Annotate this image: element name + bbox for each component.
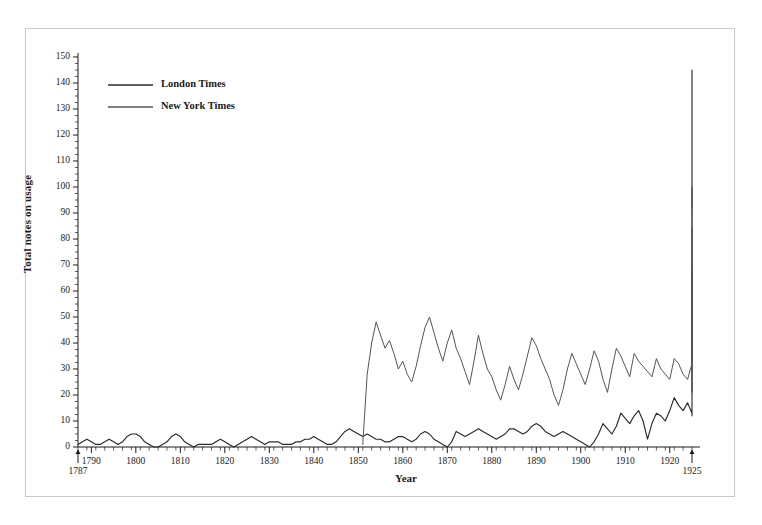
x-axis-start-arrow-head	[76, 450, 81, 455]
y-tick-label: 40	[40, 337, 70, 347]
x-tick-label: 1910	[605, 456, 645, 466]
series-line-0	[78, 70, 692, 447]
y-tick-label: 140	[40, 77, 70, 87]
chart-plot-svg	[0, 0, 762, 525]
x-tick-label: 1850	[338, 456, 378, 466]
series-group	[78, 70, 692, 447]
x-tick-label: 1810	[160, 456, 200, 466]
y-tick-label: 110	[40, 155, 70, 165]
x-tick-label: 1900	[561, 456, 601, 466]
series-line-1	[363, 187, 692, 444]
y-tick-label: 80	[40, 233, 70, 243]
x-axis-end-label: 1925	[672, 466, 712, 476]
y-tick-label: 10	[40, 415, 70, 425]
legend-label-1: New York Times	[161, 100, 235, 111]
x-tick-label: 1880	[472, 456, 512, 466]
y-tick-label: 90	[40, 207, 70, 217]
legend-label-0: London Times	[161, 78, 226, 89]
y-tick-label: 100	[40, 181, 70, 191]
y-tick-label: 50	[40, 311, 70, 321]
axes-group	[73, 53, 700, 463]
y-tick-label: 60	[40, 285, 70, 295]
x-tick-label: 1920	[650, 456, 690, 466]
x-axis-start-label: 1787	[58, 466, 98, 476]
y-tick-label: 30	[40, 363, 70, 373]
x-axis-title: Year	[0, 472, 762, 484]
y-tick-label: 70	[40, 259, 70, 269]
x-axis-end-arrow-head	[690, 450, 695, 455]
legend-lines-group	[108, 85, 153, 107]
x-tick-label: 1860	[383, 456, 423, 466]
x-tick-label: 1840	[294, 456, 334, 466]
x-tick-label: 1790	[71, 456, 111, 466]
chart-page: Total notes on usage Year 01020304050607…	[0, 0, 762, 525]
y-tick-label: 0	[40, 441, 70, 451]
y-axis-title: Total notes on usage	[21, 144, 33, 304]
y-tick-label: 120	[40, 129, 70, 139]
x-tick-label: 1800	[116, 456, 156, 466]
x-tick-label: 1890	[516, 456, 556, 466]
x-tick-label: 1820	[205, 456, 245, 466]
x-tick-label: 1830	[249, 456, 289, 466]
y-tick-label: 150	[40, 51, 70, 61]
y-tick-label: 20	[40, 389, 70, 399]
x-tick-label: 1870	[427, 456, 467, 466]
y-tick-label: 130	[40, 103, 70, 113]
